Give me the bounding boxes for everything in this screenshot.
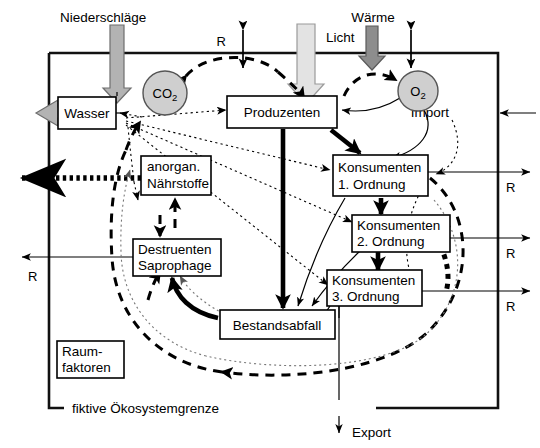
node-konsumenten-2-label-line2: 2. Ordnung: [357, 234, 425, 249]
label-export: Export: [352, 425, 391, 440]
co2-pool: CO2: [143, 71, 187, 115]
label-r-right-1: R: [506, 180, 515, 195]
node-raumfaktoren-label-line1: Raum-: [62, 344, 103, 359]
node-anorganische-naehrstoffe[interactable]: anorgan. Nährstoffe: [141, 156, 211, 195]
boundary-caption: fiktive Ökosystemgrenze: [64, 400, 376, 416]
node-destruenten-label-line2: Saprophage: [138, 258, 212, 273]
label-waerme: Wärme: [351, 10, 395, 25]
label-niederschlaege: Niederschläge: [60, 10, 146, 25]
label-r-right-2: R: [506, 246, 515, 261]
o2-label: O: [410, 84, 420, 99]
co2-label: CO: [153, 86, 173, 101]
node-bestandsabfall-label: Bestandsabfall: [233, 318, 322, 333]
label-r-right-3: R: [506, 299, 515, 314]
o2-subscript: 2: [420, 90, 425, 101]
precipitation-arrow: [103, 25, 131, 103]
node-raumfaktoren-label-line2: faktoren: [62, 360, 111, 375]
node-wasser[interactable]: Wasser: [58, 97, 116, 129]
node-konsumenten-1-label-line2: 1. Ordnung: [338, 177, 406, 192]
node-konsumenten-1[interactable]: Konsumenten 1. Ordnung: [333, 155, 428, 196]
label-licht: Licht: [326, 30, 355, 45]
node-wasser-label: Wasser: [64, 106, 110, 121]
heat-arrow: [359, 26, 385, 70]
node-produzenten[interactable]: Produzenten: [227, 96, 337, 128]
node-konsumenten-3[interactable]: Konsumenten 3. Ordnung: [327, 270, 422, 306]
boundary-caption-label: fiktive Ökosystemgrenze: [72, 401, 219, 416]
node-destruenten-saprophage[interactable]: Destruenten Saprophage: [133, 239, 221, 276]
node-naehrstoffe-label-line1: anorgan.: [147, 159, 200, 174]
label-r-left: R: [28, 269, 37, 284]
node-raumfaktoren[interactable]: Raum- faktoren: [57, 341, 124, 378]
diagram-canvas: R Niederschläge Licht Wärme Import Expor…: [0, 0, 540, 448]
node-produzenten-label: Produzenten: [244, 105, 321, 120]
node-konsumenten-2[interactable]: Konsumenten 2. Ordnung: [352, 215, 450, 252]
o2-pool: O2: [398, 71, 438, 111]
node-konsumenten-2-label-line1: Konsumenten: [357, 218, 440, 233]
node-konsumenten-3-label-line2: 3. Ordnung: [332, 289, 400, 304]
node-konsumenten-1-label-line1: Konsumenten: [338, 160, 421, 175]
co2-subscript: 2: [172, 92, 177, 103]
node-konsumenten-3-label-line1: Konsumenten: [332, 273, 415, 288]
node-naehrstoffe-label-line2: Nährstoffe: [147, 176, 209, 191]
light-arrow: [288, 24, 324, 104]
label-r-top: R: [217, 34, 226, 49]
node-bestandsabfall[interactable]: Bestandsabfall: [220, 310, 335, 339]
node-destruenten-label-line1: Destruenten: [138, 242, 212, 257]
